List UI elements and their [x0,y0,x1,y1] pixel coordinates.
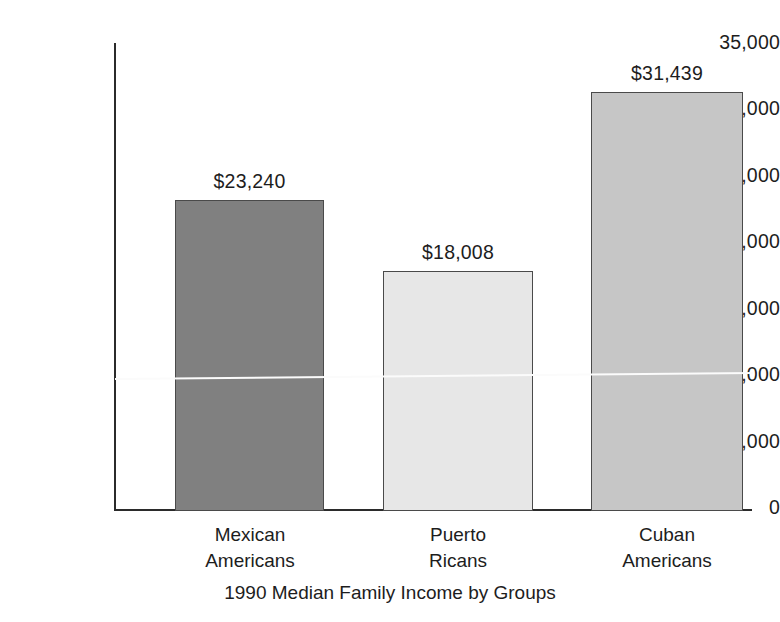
x-category-label-line-1: Cuban [587,522,747,548]
x-category-label-cuban-americans: Cuban Americans [587,522,747,574]
y-tick-label-35000: 35,000 [676,33,780,53]
x-category-label-line-2: Ricans [378,548,538,574]
x-category-label-puerto-ricans: Puerto Ricans [378,522,538,574]
bar-value-cuban-americans: $31,439 [591,64,743,84]
bar-value-puerto-ricans: $18,008 [383,243,533,263]
x-category-label-line-2: Americans [587,548,747,574]
plot-area: 35,000 30,000 25,000 20,000 15,000 10,00… [0,0,780,560]
chart-caption: 1990 Median Family Income by Groups [0,583,780,602]
y-axis-line [114,43,116,511]
x-category-label-line-2: Americans [170,548,330,574]
bar-chart-figure: 35,000 30,000 25,000 20,000 15,000 10,00… [0,0,780,622]
x-category-label-line-1: Mexican [170,522,330,548]
bar-mexican-americans [175,200,324,511]
bar-puerto-ricans [383,271,533,511]
x-category-label-line-1: Puerto [378,522,538,548]
x-category-label-mexican-americans: Mexican Americans [170,522,330,574]
bar-value-mexican-americans: $23,240 [175,172,324,192]
bar-cuban-americans [591,92,743,511]
